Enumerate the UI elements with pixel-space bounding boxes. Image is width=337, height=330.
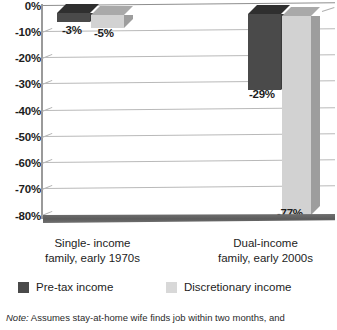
right-wall-tick: [322, 7, 335, 12]
chart-legend: Pre-tax income Discretionary income: [0, 279, 337, 301]
bar-chart: 0% -10% -20% -30% -40% -50% -60% -70% -8…: [0, 0, 337, 330]
y-tick-label: -60%: [3, 158, 41, 169]
bar-front-face: [248, 14, 281, 90]
y-tick-label: -80%: [3, 211, 41, 222]
y-axis-labels: 0% -10% -20% -30% -40% -50% -60% -70% -8…: [0, 0, 41, 232]
bar-pretax-2000s: [248, 14, 281, 90]
y-tick-label: -40%: [3, 106, 41, 117]
bar-top-face: [282, 7, 320, 16]
bar-pretax-1970s: [57, 13, 90, 22]
y-tick-label: 0%: [3, 1, 41, 12]
legend-swatch-icon: [18, 282, 29, 293]
bar-front-face: [282, 16, 311, 215]
plot-area: 0% -10% -20% -30% -40% -50% -60% -70% -8…: [0, 0, 337, 232]
legend-label: Discretionary income: [184, 281, 291, 293]
bar-discretionary-2000s: [282, 16, 311, 215]
footnote-text: Assumes stay-at-home wife finds job with…: [29, 312, 285, 323]
legend-swatch-icon: [166, 282, 177, 293]
bar-top-face: [91, 6, 133, 15]
legend-item-pretax-income[interactable]: Pre-tax income: [18, 281, 113, 293]
legend-item-discretionary-income[interactable]: Discretionary income: [166, 281, 291, 293]
bar-side-face: [124, 15, 133, 28]
footnote-prefix: Note:: [6, 312, 29, 323]
bar-top-face: [248, 5, 290, 14]
category-line-2: family, early 2000s: [198, 251, 333, 266]
category-line-1: Dual-income: [198, 236, 333, 251]
data-label-3pct: -3%: [62, 24, 82, 36]
y-tick-label: -20%: [3, 53, 41, 64]
x-axis-labels: Single- income family, early 1970s Dual-…: [0, 236, 337, 270]
chart-footnote: Note: Assumes stay-at-home wife finds jo…: [6, 312, 337, 324]
legend-label: Pre-tax income: [36, 281, 113, 293]
category-label-single-income: Single- income family, early 1970s: [25, 236, 160, 266]
bar-front-face: [57, 13, 90, 22]
category-label-dual-income: Dual-income family, early 2000s: [198, 236, 333, 266]
bar-side-face: [311, 16, 320, 215]
category-line-1: Single- income: [25, 236, 160, 251]
y-tick-label: -70%: [3, 184, 41, 195]
data-label-5pct: -5%: [94, 27, 114, 39]
data-label-29pct: -29%: [249, 88, 275, 100]
y-tick-label: -50%: [3, 132, 41, 143]
y-tick-label: -30%: [3, 79, 41, 90]
chart-floor: [43, 214, 335, 223]
y-tick-label: -10%: [3, 27, 41, 38]
category-line-2: family, early 1970s: [25, 251, 160, 266]
